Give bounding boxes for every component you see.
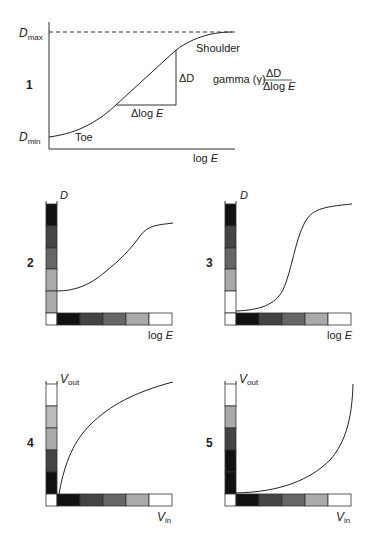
y-axis-label: D: [240, 189, 248, 201]
y-axis-label: D: [60, 189, 68, 201]
delta-log-e-label: Δlog E: [131, 107, 164, 119]
x-axis-label: Vin: [336, 510, 350, 525]
panel-number: 4: [27, 436, 34, 450]
delta-d-label: ΔD: [179, 72, 194, 84]
characteristic-curves-figure: 1 Dmax Dmin Shoulder Toe ΔD Δlog E gamma…: [0, 0, 378, 549]
x-axis-label: log E: [327, 329, 353, 341]
panel-number: 2: [27, 256, 34, 270]
vertical-gray-scale: [46, 384, 57, 494]
characteristic-curve: [236, 204, 352, 311]
x-axis-label: Vin: [157, 510, 171, 525]
panel-number: 3: [206, 256, 213, 270]
horizontal-gray-scale: [46, 494, 172, 506]
characteristic-curve: [57, 223, 173, 291]
horizontal-gray-scale: [225, 313, 351, 325]
vertical-gray-scale: [46, 204, 57, 313]
vertical-gray-scale: [225, 204, 236, 313]
gamma-label: gamma (γ): [213, 73, 266, 85]
panel-number: 1: [26, 78, 33, 92]
panel-2-low-contrast: 2 D log E: [27, 189, 174, 341]
gamma-numerator: ΔD: [266, 67, 281, 79]
panel-number: 5: [206, 436, 213, 450]
x-axis-label: log E: [148, 329, 174, 341]
panel-5-gamma-greater-than-one: 5 Vout Vin: [206, 372, 353, 525]
x-axis-label: log E: [193, 152, 219, 164]
shoulder-label: Shoulder: [196, 42, 240, 54]
gamma-denominator: Δlog E: [263, 80, 296, 92]
vertical-gray-scale: [225, 384, 236, 494]
transfer-curve: [59, 382, 173, 494]
dmin-label: Dmin: [19, 130, 41, 146]
panel-3-high-contrast: 3 D log E: [206, 189, 353, 341]
y-axis-label: Vout: [60, 372, 80, 387]
transfer-curve: [236, 384, 353, 493]
horizontal-gray-scale: [225, 494, 351, 506]
y-axis-label: Vout: [239, 372, 259, 387]
panel-4-gamma-less-than-one: 4 Vout Vin: [27, 372, 173, 525]
horizontal-gray-scale: [46, 313, 172, 325]
dmax-label: Dmax: [19, 26, 43, 42]
toe-label: Toe: [75, 131, 93, 143]
panel-1-hd-curve: 1 Dmax Dmin Shoulder Toe ΔD Δlog E gamma…: [19, 22, 296, 164]
